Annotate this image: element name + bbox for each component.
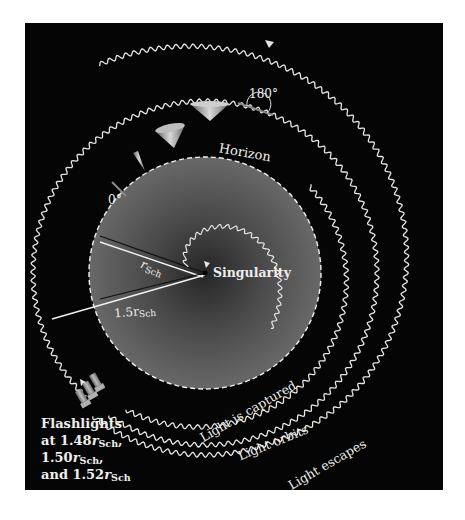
- light-escapes-label: Light escapes: [285, 436, 368, 493]
- light-orbits-label: Light orbits: [236, 422, 311, 464]
- svg-text:and 1.52rSch: and 1.52rSch: [41, 467, 131, 483]
- svg-text:at 1.48rSch,: at 1.48rSch,: [41, 433, 123, 449]
- svg-text:Flashlights: Flashlights: [41, 416, 122, 431]
- singularity-label: Singularity: [213, 265, 292, 280]
- light-cone-icon: [154, 121, 185, 148]
- black-hole-diagram: Horizon 180° 0° Singularity rSch 1.5rSch…: [0, 0, 465, 520]
- light-cone-180deg-line: [238, 103, 273, 115]
- escape-arrowhead-icon: [265, 40, 274, 48]
- flashlights-caption: Flashlights at 1.48rSch, 1.50rSch, and 1…: [41, 416, 131, 483]
- light-cone-icon: [133, 151, 145, 171]
- svg-text:1.50rSch,: 1.50rSch,: [41, 450, 104, 466]
- angle-0-label: 0°: [108, 193, 122, 207]
- singularity-point: [203, 271, 208, 276]
- angle-180-label: 180°: [249, 87, 278, 101]
- light-cone-icon: [190, 101, 229, 121]
